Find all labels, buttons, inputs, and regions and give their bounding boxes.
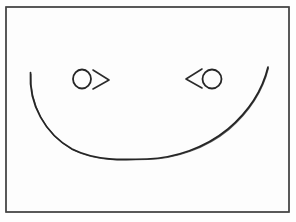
smiley-sketch-illustration <box>0 0 296 222</box>
sketch-canvas: Hand-drawn smiley face sketch A simple p… <box>0 0 296 222</box>
